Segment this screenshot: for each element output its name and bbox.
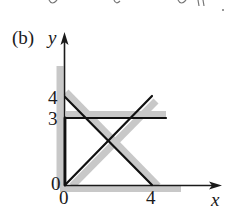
shade-x-plus-y-eq-4 xyxy=(66,92,158,186)
panel-label: (b) xyxy=(12,27,34,49)
x-origin-label: 0 xyxy=(59,187,69,208)
y-axis-label: y xyxy=(46,27,57,48)
x-axis-label: x xyxy=(210,189,220,210)
x-tick-label-4: 4 xyxy=(146,187,156,208)
cropped-text-fragments xyxy=(49,0,224,11)
inequality-graph: (b) y x 4 3 0 0 4 xyxy=(0,0,228,212)
y-tick-label-4: 4 xyxy=(48,87,58,108)
y-tick-label-3: 3 xyxy=(48,108,58,129)
